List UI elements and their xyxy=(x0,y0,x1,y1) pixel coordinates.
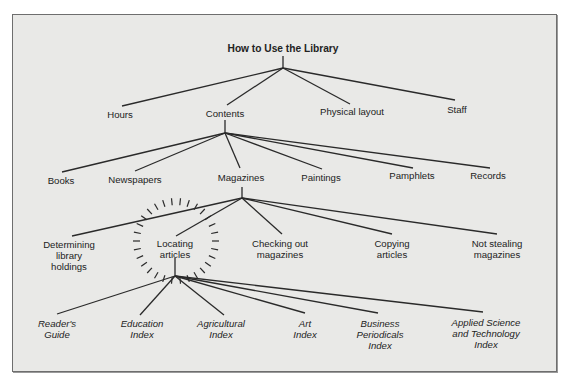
connector-line xyxy=(175,276,483,312)
node-readers: Reader'sGuide xyxy=(38,318,76,340)
connector-line xyxy=(135,133,225,171)
connector-line xyxy=(225,133,490,168)
node-determining: Determininglibraryholdings xyxy=(43,239,95,272)
connector-line xyxy=(175,276,305,313)
node-physical: Physical layout xyxy=(320,106,384,117)
node-hours: Hours xyxy=(107,109,133,120)
node-pamphlets: Pamphlets xyxy=(389,170,434,181)
connector-line xyxy=(283,68,455,100)
connector-line xyxy=(122,68,283,106)
connector-line xyxy=(283,68,350,104)
node-agricultural: AgriculturalIndex xyxy=(197,318,245,340)
node-art: ArtIndex xyxy=(293,318,316,340)
connector-line xyxy=(175,276,378,313)
node-checking: Checking outmagazines xyxy=(252,238,308,260)
node-contents: Contents xyxy=(206,108,244,119)
node-books: Books xyxy=(48,175,75,186)
node-locating: Locatingarticles xyxy=(157,238,193,260)
connector-line xyxy=(72,198,242,236)
node-magazines: Magazines xyxy=(218,172,264,183)
connector-line xyxy=(225,133,413,168)
node-newspapers: Newspapers xyxy=(108,174,161,185)
node-copying: Copyingarticles xyxy=(374,238,409,260)
node-records: Records xyxy=(470,170,506,181)
connector-line xyxy=(62,133,225,172)
node-education: EducationIndex xyxy=(121,318,164,340)
node-applied: Applied Scienceand TechnologyIndex xyxy=(452,317,521,350)
node-staff: Staff xyxy=(447,104,467,115)
node-notstealing: Not stealingmagazines xyxy=(472,238,523,260)
node-business: BusinessPeriodicalsIndex xyxy=(357,318,404,351)
node-paintings: Paintings xyxy=(301,172,340,183)
connector-line xyxy=(227,68,283,105)
connector-line xyxy=(225,133,322,169)
node-root: How to Use the Library xyxy=(228,43,339,54)
connector-line xyxy=(175,276,224,315)
